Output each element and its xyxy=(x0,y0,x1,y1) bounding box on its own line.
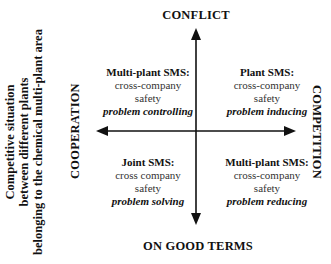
quadrant-bottom-left: Joint SMS: cross company safety problem … xyxy=(88,156,208,208)
quadrant-role: problem inducing xyxy=(207,105,327,118)
quadrant-title: Multi-plant SMS: xyxy=(207,156,327,169)
quadrant-line: safety xyxy=(207,182,327,195)
axis-label-top: CONFLICT xyxy=(146,8,246,23)
arrow-down-icon xyxy=(191,213,201,225)
quadrant-role: problem controlling xyxy=(88,105,208,118)
quadrant-role: problem solving xyxy=(88,195,208,208)
axis-label-left: COOPERATION xyxy=(68,76,83,186)
quadrant-bottom-right: Multi-plant SMS: cross-company safety pr… xyxy=(207,156,327,208)
quadrant-line: safety xyxy=(207,92,327,105)
quadrant-title: Joint SMS: xyxy=(88,156,208,169)
quadrant-line: safety xyxy=(88,182,208,195)
quadrant-line: cross-company xyxy=(207,169,327,182)
arrow-right-icon xyxy=(284,126,296,136)
quadrant-line: cross-company xyxy=(88,79,208,92)
quadrant-axes xyxy=(0,0,331,264)
quadrant-title: Plant SMS: xyxy=(207,66,327,79)
quadrant-line: cross company xyxy=(88,169,208,182)
arrow-up-icon xyxy=(191,28,201,40)
arrow-left-icon xyxy=(96,126,108,136)
quadrant-top-right: Plant SMS: cross-company safety problem … xyxy=(207,66,327,118)
quadrant-top-left: Multi-plant SMS: cross-company safety pr… xyxy=(88,66,208,118)
quadrant-line: safety xyxy=(88,92,208,105)
quadrant-line: cross-company xyxy=(207,79,327,92)
quadrant-title: Multi-plant SMS: xyxy=(88,66,208,79)
quadrant-role: problem reducing xyxy=(207,195,327,208)
axis-label-bottom: ON GOOD TERMS xyxy=(118,239,278,254)
